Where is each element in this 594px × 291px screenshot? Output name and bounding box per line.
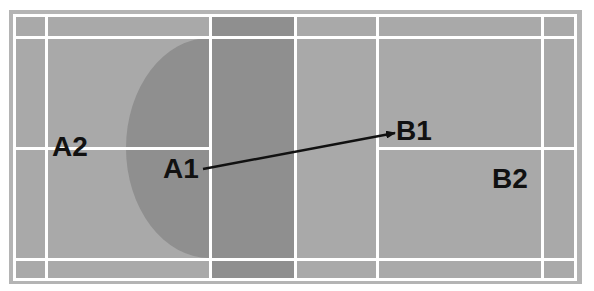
shaded-column [211, 14, 295, 281]
label-b2: B2 [492, 165, 528, 193]
label-a2: A2 [52, 133, 88, 161]
label-b1: B1 [396, 117, 432, 145]
badminton-court-diagram [0, 0, 594, 291]
label-a1: A1 [163, 155, 199, 183]
